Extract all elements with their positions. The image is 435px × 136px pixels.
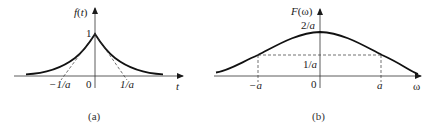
origin-label-a: 0	[86, 78, 92, 90]
figure: f(t) 1 0 −1/a 1/a t (a) F(ω) 2/a 1/a 0 −…	[0, 0, 435, 136]
peak-label-b: 2/a	[301, 19, 316, 31]
tick-right-b: a	[377, 79, 383, 91]
y-label-a: f(t)	[74, 6, 88, 19]
caption-a: (a)	[88, 110, 101, 123]
tick-left-b: −a	[249, 79, 262, 91]
y-label-b: F(ω)	[290, 5, 313, 18]
panel-a: f(t) 1 0 −1/a 1/a t (a)	[14, 6, 183, 123]
origin-label-b: 0	[311, 78, 317, 90]
x-label-a: t	[176, 80, 180, 92]
x-label-b: ω	[413, 80, 420, 92]
panel-b: F(ω) 2/a 1/a 0 −a a ω (b)	[214, 5, 421, 123]
tick-left-a: −1/a	[49, 78, 71, 90]
exp-curve	[26, 34, 163, 74]
caption-b: (b)	[312, 110, 325, 123]
tick-right-a: 1/a	[120, 78, 135, 90]
peak-label-a: 1	[86, 27, 92, 39]
half-label-b: 1/a	[303, 58, 318, 70]
